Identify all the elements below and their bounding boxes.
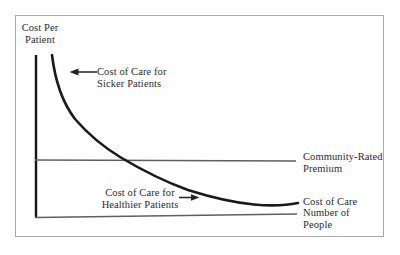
sicker-arrow [70,69,98,76]
healthier-care-label: Cost of Care for Healthier Patients [96,187,184,211]
premium-label-line2: Premium [303,163,383,175]
sicker-care-label-line1: Cost of Care for [97,66,167,78]
sicker-care-label-line2: Sicker Patients [97,78,167,90]
figure: Cost Per Patient Cost of Care for Sicker… [0,0,400,255]
y-axis-label-line1: Cost Per [18,22,62,34]
x-axis-label-line2: People [303,219,350,231]
sicker-care-label: Cost of Care for Sicker Patients [97,66,167,90]
x-axis-label: Number of People [303,207,350,231]
y-axis-label: Cost Per Patient [18,22,62,46]
x-axis-label-line1: Number of [303,207,350,219]
premium-line [35,160,296,161]
cost-curve [52,55,298,205]
premium-label-line1: Community-Rated [303,151,383,163]
y-axis-label-line2: Patient [18,34,62,46]
healthier-care-label-line1: Cost of Care for [96,187,184,199]
premium-label: Community-Rated Premium [303,151,383,175]
healthier-care-label-line2: Healthier Patients [96,199,184,211]
x-axis-line [35,214,297,218]
